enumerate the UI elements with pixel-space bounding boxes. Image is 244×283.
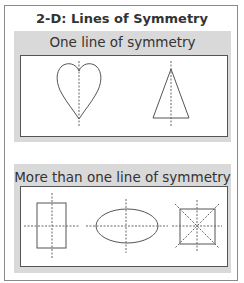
shapes-diagram (0, 0, 244, 283)
